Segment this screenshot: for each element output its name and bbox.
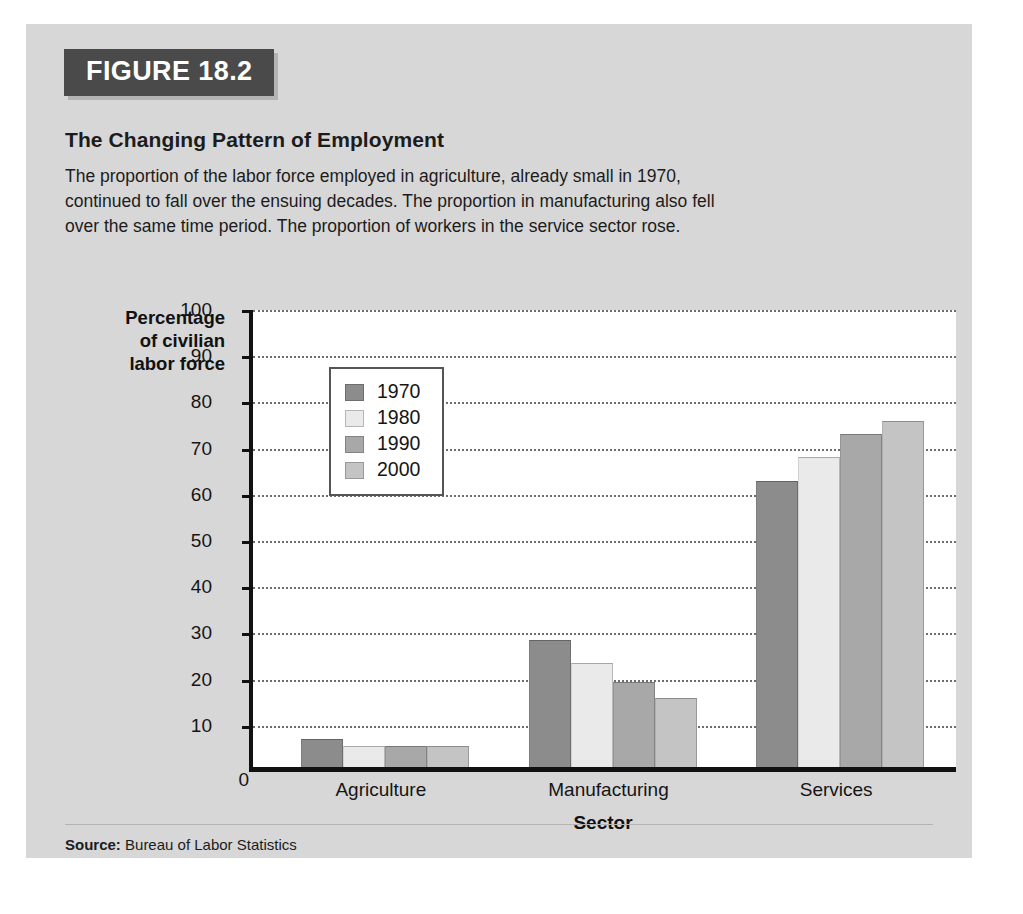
y-tick-label: 100 [142,299,212,321]
x-tick-label: Agriculture [335,779,426,801]
y-tick-label: 90 [142,345,212,367]
legend-item-1980: 1980 [345,405,420,431]
legend-item-2000: 2000 [345,457,420,483]
chart-legend: 1970198019902000 [329,367,444,496]
legend-swatch-icon [345,462,364,479]
y-tick-label: 70 [142,438,212,460]
figure-panel: FIGURE 18.2 The Changing Pattern of Empl… [26,24,972,858]
source-line: Source: Bureau of Labor Statistics [65,836,297,853]
legend-item-1990: 1990 [345,431,420,457]
bar-services-1990 [840,434,882,767]
legend-swatch-icon [345,436,364,453]
x-axis-title: Sector [573,812,632,834]
y-axis-tick [242,726,253,729]
legend-label: 1980 [377,408,420,428]
bar-services-2000 [882,421,924,768]
legend-label: 2000 [377,460,420,480]
bar-chart: Percentageof civilianlabor force 0 19701… [65,282,933,802]
y-axis-tick [242,356,253,359]
y-tick-label: 30 [142,622,212,644]
x-tick-label: Manufacturing [548,779,668,801]
y-tick-label: 50 [142,530,212,552]
bar-services-1980 [798,457,840,767]
bar-services-1970 [756,481,798,767]
bar-manufacturing-2000 [655,698,697,767]
y-tick-label: 80 [142,391,212,413]
x-tick-label: Services [800,779,873,801]
y-axis-tick [242,587,253,590]
bar-manufacturing-1990 [613,682,655,767]
y-tick-label: 40 [142,576,212,598]
bar-agriculture-1980 [343,746,385,767]
bar-manufacturing-1970 [529,640,571,767]
figure-heading: The Changing Pattern of Employment [65,128,444,152]
figure-page: FIGURE 18.2 The Changing Pattern of Empl… [0,0,1023,914]
y-axis-tick [242,495,253,498]
bar-agriculture-2000 [427,746,469,767]
legend-label: 1970 [377,382,420,402]
legend-label: 1990 [377,434,420,454]
bar-agriculture-1970 [301,739,343,767]
legend-swatch-icon [345,410,364,427]
bar-agriculture-1990 [385,746,427,767]
y-tick-label-zero: 0 [179,769,249,791]
y-axis-tick [242,310,253,313]
y-axis-tick [242,541,253,544]
bar-manufacturing-1980 [571,663,613,767]
source-text: Bureau of Labor Statistics [125,836,297,853]
plot-area: 1970198019902000 [249,310,956,772]
figure-number-tag: FIGURE 18.2 [64,49,274,96]
y-axis-tick [242,680,253,683]
y-tick-label: 20 [142,669,212,691]
legend-swatch-icon [345,384,364,401]
legend-item-1970: 1970 [345,379,420,405]
y-axis-tick [242,633,253,636]
source-divider [65,824,933,825]
y-axis-tick [242,449,253,452]
y-tick-label: 10 [142,715,212,737]
y-axis-tick [242,402,253,405]
source-label: Source: [65,836,121,853]
figure-description: The proportion of the labor force employ… [65,164,725,239]
y-tick-label: 60 [142,484,212,506]
